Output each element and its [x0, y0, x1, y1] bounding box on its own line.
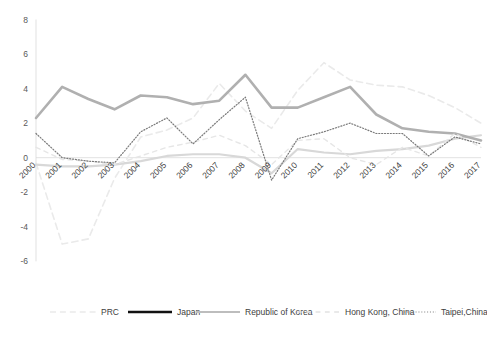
x-axis-tick-label: 2015 [410, 160, 431, 181]
x-axis-tick-label: 2013 [357, 160, 378, 181]
x-axis-tick-label: 2012 [331, 160, 352, 181]
y-axis-tick-label: 8 [23, 15, 28, 25]
chart-legend: PRCJapanRepublic of KoreaHong Kong, Chin… [50, 307, 487, 317]
x-axis-tick-label: 2001 [43, 160, 64, 181]
y-axis-tick-label: 0 [23, 153, 28, 163]
x-axis-tick-label: 2006 [174, 160, 195, 181]
x-axis-tick-group: 2000200120022003200420052006200720082009… [17, 160, 483, 181]
x-axis-tick-label: 2017 [462, 160, 483, 181]
legend-label-taipei-china[interactable]: Taipei,China [441, 307, 487, 317]
y-axis-tick-label: 4 [23, 84, 28, 94]
series-group [36, 63, 481, 244]
x-axis-tick-label: 2008 [226, 160, 247, 181]
y-axis-tick-label: -6 [20, 256, 28, 266]
y-axis-tick-label: 6 [23, 49, 28, 59]
x-axis-tick-label: 2000 [17, 160, 38, 181]
y-axis-tick-label: -2 [20, 187, 28, 197]
legend-label-prc[interactable]: PRC [101, 307, 119, 317]
y-axis-tick-group: 86420-2-4-6 [20, 15, 28, 267]
x-axis-tick-label: 2014 [383, 160, 404, 181]
y-axis-tick-label: 2 [23, 118, 28, 128]
x-axis-tick-label: 2011 [305, 160, 325, 180]
x-axis-tick-label: 2007 [200, 160, 221, 181]
series-line-republic-of-korea [36, 75, 481, 141]
chart-container: 86420-2-4-6 2000200120022003200420052006… [0, 0, 487, 339]
axis-lines [36, 20, 481, 262]
legend-label-republic-of-korea[interactable]: Republic of Korea [245, 307, 313, 317]
y-axis-tick-label: -4 [20, 222, 28, 232]
x-axis-tick-label: 2002 [69, 160, 90, 181]
line-chart: 86420-2-4-6 2000200120022003200420052006… [0, 0, 487, 339]
x-axis-tick-label: 2016 [436, 160, 457, 181]
x-axis-tick-label: 2005 [148, 160, 169, 181]
